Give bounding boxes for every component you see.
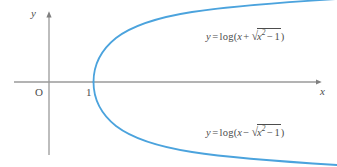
math-figure: y x O 1 y=log(x+√x2−1) y=log(x−√x2−1) bbox=[0, 0, 337, 167]
upper-eq-radical: √x2−1 bbox=[251, 28, 281, 43]
upper-eq-lhs: y bbox=[206, 31, 211, 42]
lower-eq-radical: √x2−1 bbox=[251, 124, 281, 139]
upper-branch-equation-label: y=log(x+√x2−1) bbox=[206, 28, 284, 43]
origin-label: O bbox=[35, 87, 43, 98]
lower-eq-radicand-constant: 1 bbox=[274, 127, 279, 138]
lower-eq-equals: = bbox=[211, 127, 220, 138]
lower-branch-equation-label: y=log(x−√x2−1) bbox=[206, 124, 284, 139]
upper-eq-equals: = bbox=[211, 31, 220, 42]
x-tick-label-1: 1 bbox=[86, 87, 92, 98]
y-axis-label: y bbox=[31, 8, 36, 19]
upper-eq-operator: + bbox=[242, 31, 251, 42]
lower-eq-operator: − bbox=[242, 127, 251, 138]
upper-eq-close-paren: ) bbox=[281, 31, 285, 42]
lower-eq-lhs: y bbox=[206, 127, 211, 138]
lower-eq-close-paren: ) bbox=[281, 127, 285, 138]
upper-eq-radicand-constant: 1 bbox=[274, 31, 279, 42]
lower-eq-function: log bbox=[220, 127, 234, 138]
upper-eq-radicand: x2−1 bbox=[257, 28, 281, 43]
lower-eq-radicand: x2−1 bbox=[257, 124, 281, 139]
x-axis-label: x bbox=[320, 86, 325, 97]
upper-eq-function: log bbox=[220, 31, 234, 42]
plot-canvas bbox=[0, 0, 337, 167]
